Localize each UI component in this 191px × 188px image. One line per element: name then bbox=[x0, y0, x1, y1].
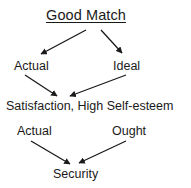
edge-actual-bottom-to-security bbox=[31, 141, 70, 164]
edge-ideal-to-satisfaction bbox=[70, 75, 126, 96]
arrow-layer bbox=[0, 0, 191, 188]
edge-ought-to-security bbox=[79, 141, 126, 163]
node-ought: Ought bbox=[112, 125, 146, 138]
edge-title-to-ideal bbox=[101, 30, 122, 53]
node-satisfaction-high-self-esteem: Satisfaction, High Self-esteem bbox=[6, 100, 173, 113]
diagram-canvas: Good Match Actual Ideal Satisfaction, Hi… bbox=[0, 0, 191, 188]
node-actual-top: Actual bbox=[14, 60, 49, 73]
node-ideal: Ideal bbox=[113, 60, 140, 73]
node-good-match-title: Good Match bbox=[46, 8, 126, 23]
edge-actual-top-to-satisfaction bbox=[25, 75, 57, 96]
node-actual-bottom: Actual bbox=[17, 125, 52, 138]
node-security: Security bbox=[53, 168, 98, 181]
edge-title-to-actual-top bbox=[41, 30, 86, 54]
